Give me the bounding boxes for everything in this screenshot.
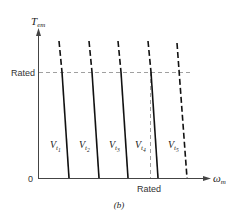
x-axis-arrow-icon [203,176,211,181]
torque-speed-diagram: Tem ωm Rated Rated 0 Vt1 Vt2 Vt3 Vt4 Vt5… [0,0,240,219]
rated-torque-label: Rated [11,68,35,78]
curve-label-vt1: Vt1 [50,139,61,153]
origin-label: 0 [28,174,33,184]
rated-speed-label: Rated [137,184,161,194]
curve-vt4 [148,41,158,178]
y-axis-arrow-icon [36,28,41,36]
curve-label-vt2: Vt2 [79,139,90,153]
curve-vt3 [118,41,128,178]
curve-vt5 [177,43,187,178]
curve-label-vt4: Vt4 [135,139,146,153]
figure-caption: (b) [114,200,125,210]
y-axis-label: Tem [31,15,45,29]
curve-label-vt5: Vt5 [168,139,179,153]
curve-label-vt3: Vt3 [109,139,120,153]
curve-vt1 [59,41,69,178]
x-axis-label: ωm [213,172,226,186]
curve-vt2 [89,41,99,178]
